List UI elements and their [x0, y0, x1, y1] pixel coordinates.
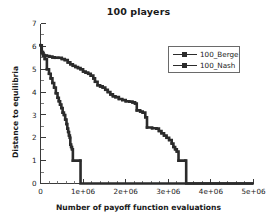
x-tick-label: 5e+06 [241, 187, 266, 196]
series-marker [72, 159, 75, 162]
series-marker [65, 123, 68, 126]
series-marker [121, 99, 124, 102]
series-marker [53, 86, 56, 89]
series-marker [69, 136, 72, 139]
series-marker [49, 77, 52, 80]
series-marker [69, 63, 72, 66]
series-marker [43, 58, 46, 61]
x-axis-title: Number of payoff function evaluations [0, 203, 277, 212]
series-marker [124, 100, 127, 103]
series-marker [163, 134, 166, 137]
series-marker [172, 146, 175, 149]
x-tick-label: 0 [38, 187, 43, 196]
y-tick-label: 1 [32, 156, 37, 165]
series-marker [56, 96, 59, 99]
series-marker [141, 111, 144, 114]
series-marker [63, 59, 66, 62]
series-marker [82, 70, 85, 73]
series-marker [40, 51, 43, 54]
series-marker [104, 88, 107, 91]
series-marker [177, 159, 180, 162]
series-marker [112, 95, 115, 98]
series-marker [114, 96, 117, 99]
series-marker [42, 54, 45, 57]
legend-line-sample-icon [173, 61, 197, 70]
legend-item-nash: 100_Nash [173, 60, 235, 71]
series-marker [77, 67, 80, 70]
x-tick-label: 1e+06 [71, 187, 96, 196]
series-marker [146, 126, 149, 129]
series-marker [58, 100, 61, 103]
series-marker [57, 56, 60, 59]
series-marker [101, 86, 104, 89]
series-marker [107, 91, 110, 94]
series-marker [74, 66, 77, 69]
series-marker [158, 130, 161, 133]
y-tick-label: 5 [32, 65, 37, 74]
series-marker [72, 64, 75, 67]
series-marker [59, 103, 62, 106]
series-marker [87, 72, 90, 75]
series-marker [71, 148, 74, 151]
legend-item-berge: 100_Berge [173, 49, 238, 60]
series-marker [139, 110, 142, 113]
y-tick-label: 6 [32, 42, 37, 51]
series-marker [51, 56, 54, 59]
series-marker [168, 139, 171, 142]
series-marker [92, 77, 95, 80]
series-marker [131, 101, 134, 104]
legend-line-sample-icon [173, 50, 197, 59]
legend-label-nash: 100_Nash [200, 61, 235, 70]
x-tick-label: 4e+06 [199, 187, 224, 196]
series-marker [67, 131, 70, 134]
chart-figure: 100 players 0123456701e+062e+063e+064e+0… [0, 0, 277, 219]
series-marker [64, 118, 67, 121]
series-marker [128, 100, 131, 103]
series-marker [99, 85, 102, 88]
series-marker [134, 102, 137, 105]
x-tick-label: 2e+06 [114, 187, 139, 196]
series-marker [39, 44, 42, 47]
series-marker [69, 143, 72, 146]
series-marker [61, 111, 64, 114]
y-axis-title: Distance to equilibria [11, 66, 20, 158]
series-marker [151, 127, 154, 130]
series-marker [51, 82, 54, 85]
series-marker [46, 68, 49, 71]
y-tick-label: 0 [32, 179, 37, 188]
series-marker [68, 134, 71, 137]
y-tick-label: 2 [32, 133, 37, 142]
series-marker [79, 68, 82, 71]
y-tick-label: 3 [32, 111, 37, 120]
series-marker [66, 61, 69, 64]
series-marker [184, 159, 187, 162]
series-marker [174, 148, 177, 151]
series-marker [60, 107, 63, 110]
series-marker [165, 136, 168, 139]
series-marker [55, 92, 58, 95]
x-tick-label: 3e+06 [156, 187, 181, 196]
series-marker [155, 127, 158, 130]
y-tick-label: 7 [32, 19, 37, 28]
series-marker [176, 150, 179, 153]
chart-legend: 100_Berge 100_Nash [168, 46, 240, 73]
series-marker [170, 142, 173, 145]
series-marker [135, 109, 138, 112]
legend-label-berge: 100_Berge [200, 50, 238, 59]
y-tick-label: 4 [32, 88, 37, 97]
series-marker [63, 114, 66, 117]
series-marker [84, 71, 87, 74]
series-marker [96, 84, 99, 87]
series-marker [79, 159, 82, 162]
series-marker [144, 116, 147, 119]
series-marker [54, 56, 57, 59]
series-marker [48, 55, 51, 58]
plot-area: 0123456701e+062e+063e+064e+065e+06 [0, 0, 277, 219]
series-marker [94, 80, 97, 83]
series-marker [70, 146, 73, 149]
series-marker [160, 132, 163, 135]
series-marker [61, 58, 64, 61]
series-marker [118, 98, 121, 101]
series-marker [48, 72, 51, 75]
series-marker [66, 127, 69, 130]
